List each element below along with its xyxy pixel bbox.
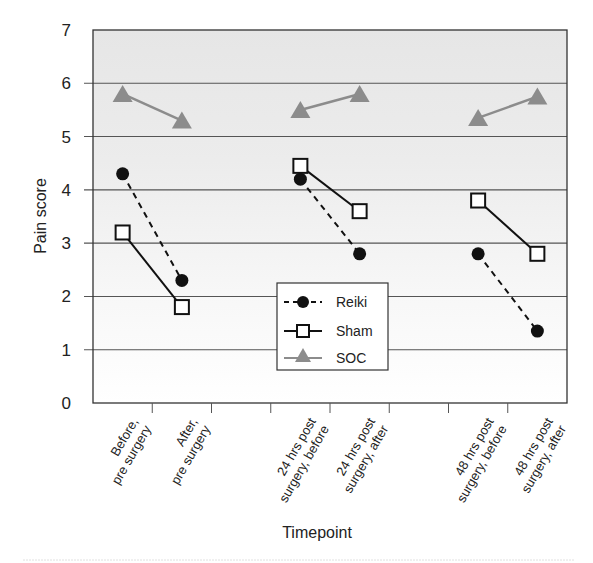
pain-score-chart: 01234567 Before,pre surgeryAfter,pre sur… bbox=[0, 0, 593, 563]
x-axis-title: Timepoint bbox=[282, 524, 352, 541]
x-category-label: Before,pre surgery bbox=[95, 415, 154, 487]
x-axis-ticks: Before,pre surgeryAfter,pre surgery24 hr… bbox=[95, 403, 569, 505]
y-tick-label: 7 bbox=[62, 21, 71, 40]
x-category-label: 24 hrs postsurgery, after bbox=[327, 414, 391, 495]
legend-label-soc: SOC bbox=[336, 350, 366, 366]
data-point-square bbox=[530, 247, 544, 261]
data-point-square bbox=[175, 300, 189, 314]
x-category-label: 24 hrs postsurgery, before bbox=[263, 415, 332, 505]
y-tick-label: 4 bbox=[62, 181, 71, 200]
data-point-circle bbox=[531, 325, 544, 338]
square-marker-icon bbox=[297, 325, 309, 337]
x-category-label: 48 hrs postsurgery, after bbox=[505, 414, 569, 495]
data-point-square bbox=[293, 159, 307, 173]
data-point-square bbox=[471, 194, 485, 208]
data-point-circle bbox=[175, 274, 188, 287]
circle-marker-icon bbox=[297, 296, 309, 308]
legend-label-reiki: Reiki bbox=[336, 294, 367, 310]
y-tick-label: 2 bbox=[62, 287, 71, 306]
data-point-circle bbox=[353, 247, 366, 260]
data-point-square bbox=[353, 204, 367, 218]
data-point-circle bbox=[116, 167, 129, 180]
y-tick-label: 3 bbox=[62, 234, 71, 253]
y-axis-title: Pain score bbox=[32, 178, 49, 254]
x-category-label: After,pre surgery bbox=[155, 415, 214, 487]
y-tick-label: 1 bbox=[62, 341, 71, 360]
y-tick-label: 0 bbox=[62, 394, 71, 413]
legend: Reiki Sham SOC bbox=[277, 283, 388, 370]
legend-label-sham: Sham bbox=[336, 323, 373, 339]
y-axis-ticks: 01234567 bbox=[62, 21, 71, 413]
x-category-label: 48 hrs postsurgery, before bbox=[440, 415, 509, 505]
data-point-square bbox=[116, 225, 130, 239]
y-tick-label: 5 bbox=[62, 128, 71, 147]
data-point-circle bbox=[472, 247, 485, 260]
data-point-circle bbox=[294, 173, 307, 186]
y-tick-label: 6 bbox=[62, 74, 71, 93]
